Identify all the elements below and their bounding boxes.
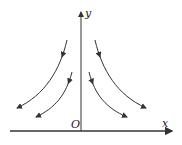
- direction-arrow-icon: [99, 53, 100, 57]
- y-axis-label: y: [85, 8, 91, 19]
- direction-arrow-icon: [92, 81, 93, 84]
- flow-line-left-inner: [36, 72, 72, 117]
- flow-line-left-outer: [17, 40, 67, 108]
- flow-diagram: [0, 0, 182, 145]
- direction-arrow-icon: [62, 53, 63, 57]
- flow-line-right-outer: [95, 40, 146, 108]
- flow-line-right-inner: [89, 72, 127, 117]
- direction-arrow-icon: [68, 81, 69, 84]
- origin-label: O: [71, 119, 80, 130]
- x-axis-label: x: [162, 118, 168, 129]
